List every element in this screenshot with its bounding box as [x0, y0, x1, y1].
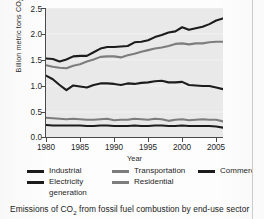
legend-item-industrial[interactable]: Industrial — [27, 166, 81, 177]
legend-swatch-electricity-generation — [27, 181, 44, 184]
x-axis-line — [45, 137, 223, 138]
legend-swatch-industrial — [27, 170, 44, 173]
x-tick-2000 — [182, 138, 183, 142]
x-tick-2005 — [216, 138, 217, 142]
series-line-industrial — [46, 76, 223, 91]
plot-background — [46, 8, 223, 138]
series-line-commercial — [46, 125, 223, 128]
legend-item-electricity-generation[interactable]: Electricity generation — [27, 177, 87, 198]
y-tick-label-2-5: 2.5 — [12, 5, 42, 14]
series-line-electricity-generation — [46, 18, 223, 61]
legend-item-residential[interactable]: Residential — [112, 177, 174, 188]
x-tick-label-2005: 2005 — [196, 143, 236, 152]
x-tick-1980 — [46, 138, 47, 142]
legend-label-electricity-generation: Electricity generation — [49, 177, 87, 198]
legend: Industrial Electricity generation Transp… — [27, 166, 242, 198]
page: Billion metric tons CO2 2.5 2.0 1.5 1.0 … — [0, 0, 264, 219]
y-axis-label-sub: 2 — [18, 0, 24, 1]
y-tick-label-1-5: 1.5 — [12, 56, 42, 65]
legend-swatch-commercial — [198, 170, 215, 173]
chart: Billion metric tons CO2 2.5 2.0 1.5 1.0 … — [0, 2, 253, 162]
caption-post: from fossil fuel combustion by end-use s… — [77, 204, 250, 214]
x-axis-label: Year — [46, 154, 223, 163]
series-layer — [46, 8, 223, 138]
legend-item-transportation[interactable]: Transportation — [112, 166, 185, 177]
y-tick-label-1-0: 1.0 — [12, 82, 42, 91]
x-tick-1985 — [80, 138, 81, 142]
legend-label-transportation: Transportation — [134, 166, 185, 177]
y-tick-label-0-5: 0.5 — [12, 108, 42, 117]
series-line-residential — [46, 118, 223, 122]
x-tick-1990 — [114, 138, 115, 142]
legend-swatch-residential — [112, 181, 129, 184]
y-tick-label-2-0: 2.0 — [12, 30, 42, 39]
caption-pre: Emissions of CO — [10, 204, 73, 214]
y-tick-label-0-0: 0.0 — [12, 133, 42, 142]
plot-area — [46, 8, 223, 138]
figure: Billion metric tons CO2 2.5 2.0 1.5 1.0 … — [0, 0, 253, 219]
page-right-edge — [252, 0, 264, 219]
legend-label-industrial: Industrial — [49, 166, 81, 177]
legend-label-residential: Residential — [134, 177, 174, 188]
x-tick-1995 — [148, 138, 149, 142]
legend-swatch-transportation — [112, 170, 129, 173]
figure-caption: Emissions of CO2 from fossil fuel combus… — [10, 204, 250, 216]
y-axis-line — [45, 8, 46, 138]
series-line-transportation — [46, 42, 223, 69]
